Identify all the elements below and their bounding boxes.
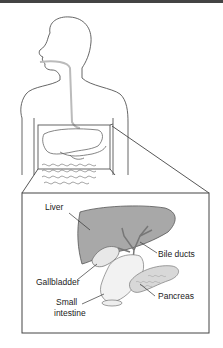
intestines	[42, 164, 96, 184]
body-liver	[43, 129, 106, 159]
label-bile-ducts: Bile ducts	[158, 250, 195, 259]
label-small: Small	[56, 298, 77, 307]
intestine-opening	[102, 300, 122, 306]
label-liver: Liver	[45, 203, 63, 212]
esophagus	[40, 61, 80, 128]
zoom-lines	[22, 126, 209, 193]
label-intestine: intestine	[54, 309, 86, 318]
label-pancreas: Pancreas	[158, 292, 194, 301]
label-gallbladder: Gallbladder	[36, 278, 79, 287]
focus-box	[38, 124, 113, 169]
